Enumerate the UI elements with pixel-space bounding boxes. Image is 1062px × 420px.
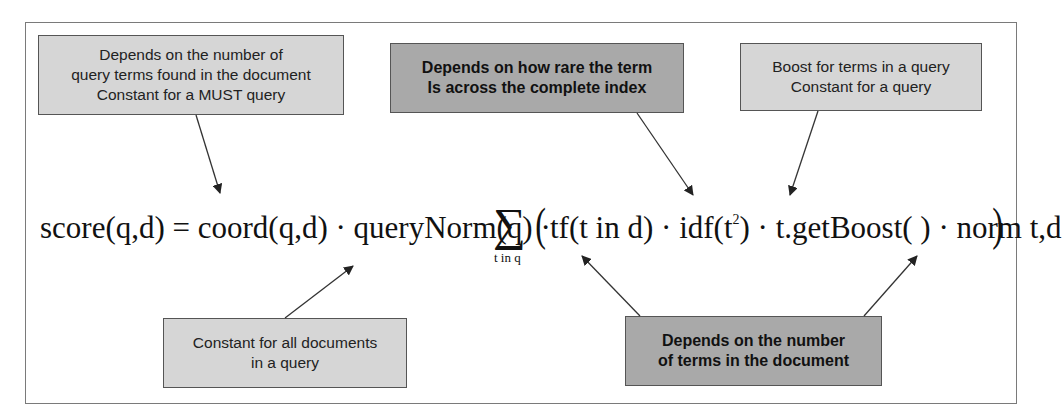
arrow-coord <box>196 115 220 193</box>
arrow-idf <box>637 113 693 195</box>
arrow-tf <box>582 256 640 316</box>
arrow-querynorm <box>285 266 353 318</box>
arrow-boost <box>790 111 818 195</box>
arrow-norm <box>864 256 917 316</box>
